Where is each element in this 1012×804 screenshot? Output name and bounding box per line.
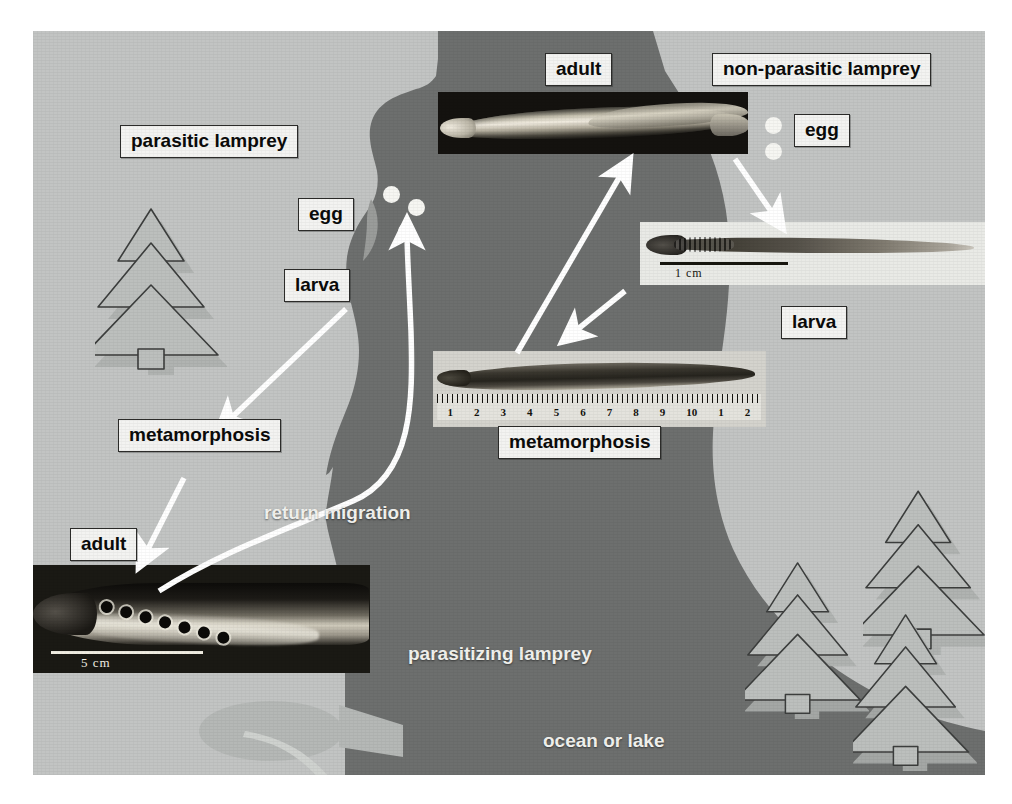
lamprey-life-cycle-figure: 1 cm 1 2 3 4 5 6 7 8 9 10 1 [33,31,985,775]
label-egg-right: egg [794,114,850,147]
host-fish-with-lamprey [193,691,413,775]
fish-body [199,701,343,761]
scale-label-1cm: 1 cm [675,266,703,281]
ruler-number: 2 [745,406,751,418]
egg-left-2 [408,199,425,216]
photo-adult-lamprey-bottom: 5 cm [33,565,370,673]
ruler-number: 2 [474,406,480,418]
ruler-number: 5 [554,406,560,418]
ruler: 1 2 3 4 5 6 7 8 9 10 1 2 [437,394,761,420]
egg-left-1 [383,186,400,203]
label-return-migration: return migration [264,502,411,524]
egg-left-3 [398,223,415,240]
tree-right-left [745,561,869,719]
ruler-number: 4 [527,406,533,418]
ruler-numbers: 1 2 3 4 5 6 7 8 9 10 1 2 [437,403,761,420]
ruler-number: 9 [660,406,666,418]
ruler-number: 6 [580,406,586,418]
scale-bar-5cm [51,651,203,654]
photo-metamorphosis-center: 1 2 3 4 5 6 7 8 9 10 1 2 [433,351,766,427]
ruler-number: 7 [607,406,613,418]
label-larva-left: larva [284,269,350,302]
label-parasitic-lamprey: parasitic lamprey [120,125,298,158]
label-adult-top: adult [545,53,612,86]
label-parasitizing-lamprey: parasitizing lamprey [408,643,592,665]
label-metamorphosis-center: metamorphosis [498,426,661,459]
ruler-number: 1 [718,406,724,418]
scale-bar-1cm [660,262,788,265]
egg-right-2 [765,143,782,160]
ruler-ticks [437,394,761,403]
label-larva-right: larva [781,306,847,339]
label-non-parasitic-lamprey: non-parasitic lamprey [712,53,931,86]
figure-canvas: 1 cm 1 2 3 4 5 6 7 8 9 10 1 [0,0,1012,804]
label-adult-bottom: adult [70,528,137,561]
photo-larva-right: 1 cm [640,222,985,285]
ruler-number: 8 [633,406,639,418]
photo-adult-lamprey-top [438,92,748,154]
tree-left [95,207,227,375]
fish-tail [339,705,403,757]
label-egg-left: egg [298,198,354,231]
ruler-number: 10 [686,406,697,418]
tree-right-lower [853,613,977,771]
label-metamorphosis-left: metamorphosis [118,419,281,452]
egg-right-1 [765,117,782,134]
ruler-number: 1 [448,406,454,418]
label-ocean-or-lake: ocean or lake [543,730,664,752]
scale-label-5cm: 5 cm [81,655,111,671]
ruler-number: 3 [501,406,507,418]
